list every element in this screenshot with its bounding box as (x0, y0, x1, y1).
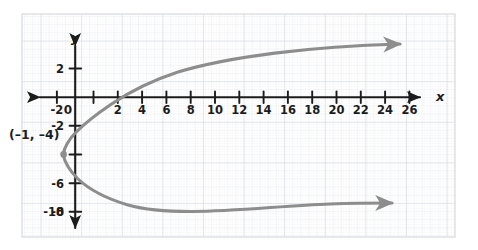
svg-text:10: 10 (207, 103, 223, 117)
svg-text:x: x (435, 89, 445, 104)
y-axis-label: y (71, 30, 80, 45)
svg-text:24: 24 (377, 103, 393, 117)
x-axis-label: x (435, 89, 445, 104)
svg-text:22: 22 (353, 103, 369, 117)
svg-text:12: 12 (231, 103, 247, 117)
svg-text:2: 2 (56, 62, 64, 76)
svg-text:8: 8 (187, 103, 195, 117)
vertex-point (60, 151, 67, 158)
svg-text:-2: -2 (51, 103, 64, 117)
svg-text:2: 2 (114, 103, 122, 117)
svg-text:26: 26 (401, 103, 417, 117)
svg-text:-6: -6 (51, 177, 64, 191)
graph-canvas: -2 2 4 6 8 10 12 14 16 18 20 22 24 26 0 … (0, 0, 478, 250)
svg-text:(–1, –4): (–1, –4) (9, 127, 59, 142)
vertex-annotation: (–1, –4) (9, 127, 59, 142)
svg-text:20: 20 (328, 103, 344, 117)
svg-text:4: 4 (138, 103, 146, 117)
graph-figure: -2 2 4 6 8 10 12 14 16 18 20 22 24 26 0 … (0, 0, 478, 250)
svg-text:6: 6 (162, 103, 170, 117)
svg-text:14: 14 (256, 103, 272, 117)
svg-text:y: y (71, 30, 80, 45)
svg-text:16: 16 (280, 103, 296, 117)
svg-text:-10: -10 (43, 205, 64, 219)
svg-text:0: 0 (64, 103, 72, 117)
origin-label: 0 (64, 103, 72, 117)
svg-text:18: 18 (304, 103, 320, 117)
y-tick-label-minus-ten: -10 (43, 205, 64, 219)
